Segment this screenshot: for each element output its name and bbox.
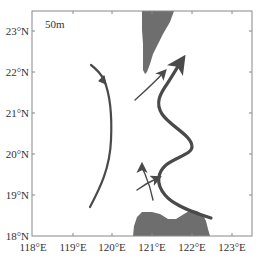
y-tick-label: 22°N (6, 66, 29, 78)
x-tick-label: 121°E (138, 241, 166, 253)
y-tick-label: 20°N (6, 148, 29, 160)
plot-area (32, 11, 252, 236)
depth-label: 50m (45, 18, 65, 30)
y-tick-label: 23°N (6, 25, 29, 37)
x-tick-label: 122°E (178, 241, 206, 253)
x-tick-label: 120°E (98, 241, 126, 253)
x-tick-label: 118°E (19, 241, 46, 253)
y-tick-label: 21°N (6, 107, 29, 119)
ocean-current-map: 23°N 22°N 21°N 20°N 19°N 18°N 118°E 119°… (0, 0, 261, 262)
x-tick-label: 123°E (218, 241, 246, 253)
y-tick-label: 19°N (6, 189, 29, 201)
x-tick-label: 119°E (59, 241, 86, 253)
